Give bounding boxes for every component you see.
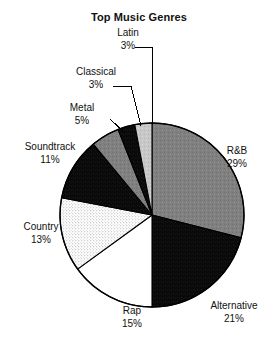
slice-label-rap-name: Rap: [104, 305, 160, 318]
slice-label-metal-name: Metal: [50, 102, 114, 115]
slice-label-latin-value: 3%: [96, 40, 160, 53]
slice-label-soundtrack: Soundtrack 11%: [8, 141, 92, 166]
slice-label-classical-name: Classical: [58, 66, 134, 79]
slice-label-alternative: Alternative 21%: [192, 300, 276, 325]
slice-label-rnb-name: R&B: [206, 145, 268, 158]
slice-label-rap-value: 15%: [104, 318, 160, 331]
slice-label-metal-value: 5%: [50, 115, 114, 128]
slice-label-classical: Classical 3%: [58, 66, 134, 91]
slice-label-metal: Metal 5%: [50, 102, 114, 127]
slice-label-latin-name: Latin: [96, 27, 160, 40]
leader-line-classical: [113, 86, 141, 126]
slice-label-country-name: Country: [6, 221, 76, 234]
slice-label-alternative-name: Alternative: [192, 300, 276, 313]
slice-label-soundtrack-name: Soundtrack: [8, 141, 92, 154]
slice-label-classical-value: 3%: [58, 79, 134, 92]
slice-label-soundtrack-value: 11%: [8, 154, 92, 167]
slice-label-rnb-value: 29%: [206, 158, 268, 171]
pie-chart-figure: Top Music Genres: [0, 0, 278, 357]
slice-label-rap: Rap 15%: [104, 305, 160, 330]
slice-label-country-value: 13%: [6, 234, 76, 247]
slice-label-alternative-value: 21%: [192, 313, 276, 326]
slice-label-rnb: R&B 29%: [206, 145, 268, 170]
slice-label-country: Country 13%: [6, 221, 76, 246]
slice-label-latin: Latin 3%: [96, 27, 160, 52]
